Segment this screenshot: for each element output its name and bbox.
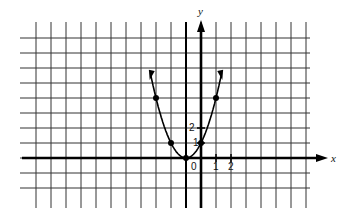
- data-point: [168, 140, 174, 146]
- y-axis-label: y: [197, 5, 203, 17]
- data-point: [198, 140, 204, 146]
- x-axis-arrow-icon: [316, 154, 328, 162]
- x-axis-label: x: [330, 152, 336, 164]
- y-tick-2: 2: [189, 122, 195, 133]
- parabola-graph: x y 0 1 2 1 2: [0, 0, 344, 218]
- data-point: [183, 155, 189, 161]
- data-point: [153, 95, 159, 101]
- x-tick-2: 2: [228, 161, 234, 172]
- y-axis-arrow-icon: [197, 20, 205, 32]
- x-tick-1: 1: [213, 161, 219, 172]
- data-point: [213, 95, 219, 101]
- y-axis: y: [197, 5, 205, 208]
- origin-label: 0: [191, 161, 197, 172]
- grid: [20, 22, 310, 208]
